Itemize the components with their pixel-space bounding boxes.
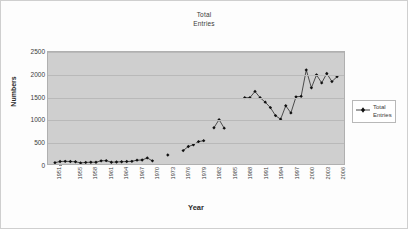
data-point-marker — [146, 156, 149, 159]
y-axis-tick-label: 500 — [14, 139, 45, 146]
y-axis-tick-label: 2000 — [14, 70, 45, 77]
y-axis-tick-label: 1000 — [14, 116, 45, 123]
data-point-marker — [94, 161, 97, 164]
data-point-marker — [58, 160, 61, 163]
data-point-marker — [310, 86, 313, 89]
x-axis-tick-label: 1961 — [108, 167, 114, 179]
data-point-marker — [202, 139, 205, 142]
chart-title: Total Entries — [0, 10, 408, 28]
x-axis-tick-label: 1985 — [232, 167, 238, 179]
gridline — [48, 143, 344, 144]
data-point-marker — [166, 153, 169, 156]
y-axis-tick-label: 0 — [14, 162, 45, 169]
data-point-marker — [151, 159, 154, 162]
legend-marker-icon — [355, 105, 371, 115]
data-point-marker — [64, 160, 67, 163]
y-axis-tick-label: 1500 — [14, 93, 45, 100]
legend-label-line-2: Entries — [373, 112, 392, 120]
legend: Total Entries — [352, 100, 396, 123]
x-axis-tick-label: 1982 — [216, 167, 222, 179]
x-axis-tick-label: 1994 — [278, 167, 284, 179]
figure-left-border — [0, 0, 1, 229]
data-point-marker — [140, 158, 143, 161]
data-point-marker — [212, 126, 215, 129]
data-point-marker — [320, 81, 323, 84]
chart-figure: Total Entries Numbers 050010001500200025… — [0, 0, 408, 229]
x-axis-tick-label: 1973 — [170, 167, 176, 179]
x-axis-tick-label: 1955 — [77, 167, 83, 179]
x-axis-tick-label: 1997 — [294, 167, 300, 179]
data-point-marker — [130, 160, 133, 163]
y-axis-tick-label: 2500 — [14, 48, 45, 55]
x-axis-tick-label: 1958 — [92, 167, 98, 179]
x-axis-tick-label: 1951 — [56, 167, 62, 179]
plot-area — [47, 51, 345, 165]
figure-bottom-border — [0, 228, 408, 229]
data-point-marker — [105, 159, 108, 162]
data-point-marker — [125, 160, 128, 163]
data-point-marker — [120, 160, 123, 163]
gridline — [48, 52, 344, 53]
data-point-marker — [53, 161, 56, 164]
legend-label: Total Entries — [373, 104, 392, 119]
y-axis-tick-mark — [59, 165, 62, 166]
x-axis-tick-label: 2006 — [340, 167, 346, 179]
x-axis-tick-label: 1988 — [247, 167, 253, 179]
x-axis-tick-label: 1991 — [263, 167, 269, 179]
data-point-marker — [223, 126, 226, 129]
figure-top-border — [0, 0, 408, 1]
x-axis-tick-label: 2003 — [325, 167, 331, 179]
x-axis-tick-label: 2000 — [309, 167, 315, 179]
data-point-marker — [99, 159, 102, 162]
data-series-total-entries — [48, 52, 344, 164]
gridline — [48, 120, 344, 121]
x-axis-tick-label: 1964 — [123, 167, 129, 179]
x-axis-tick-label: 1976 — [185, 167, 191, 179]
x-axis-tick-label: 1979 — [201, 167, 207, 179]
data-point-marker — [79, 161, 82, 164]
chart-title-line-1: Total — [0, 10, 408, 19]
x-axis-tick-label: 1967 — [139, 167, 145, 179]
data-point-marker — [69, 160, 72, 163]
data-point-marker — [84, 161, 87, 164]
y-axis-tick-labels: 05001000150020002500 — [14, 45, 45, 171]
data-point-marker — [74, 160, 77, 163]
chart-title-line-2: Entries — [0, 19, 408, 28]
data-point-marker — [115, 160, 118, 163]
x-axis-tick-labels: 1951195519581961196419671970197319761979… — [47, 167, 345, 197]
gridline — [48, 98, 344, 99]
data-point-marker — [135, 159, 138, 162]
x-axis-tick-label: 1970 — [154, 167, 160, 179]
x-axis-title: Year — [47, 203, 345, 212]
gridline — [48, 75, 344, 76]
data-point-marker — [305, 68, 308, 71]
data-point-marker — [89, 161, 92, 164]
legend-label-line-1: Total — [373, 104, 392, 112]
data-point-marker — [110, 161, 113, 164]
